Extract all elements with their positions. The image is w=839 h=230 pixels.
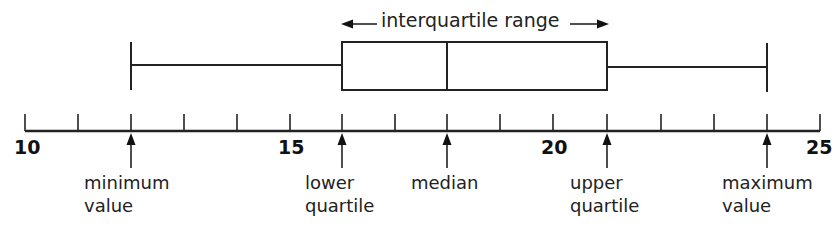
min-label-line2: value: [84, 194, 169, 217]
tick-label-15: 15: [278, 136, 304, 158]
median-label: median: [411, 171, 478, 194]
tick-label-25: 25: [806, 136, 832, 158]
axis-ticks: [25, 114, 820, 131]
median-label-line1: median: [411, 171, 478, 194]
lq-arrow-up-icon: [338, 133, 347, 145]
max-label-line2: value: [722, 194, 813, 217]
max-label-line1: maximum: [722, 171, 813, 194]
min-label-line1: minimum: [84, 171, 169, 194]
max-label: maximum value: [722, 171, 813, 217]
iqr-box: [342, 42, 607, 90]
uq-label: upper quartile: [570, 171, 639, 217]
lq-label-line1: lower: [305, 171, 374, 194]
lq-label-line2: quartile: [305, 194, 374, 217]
median-arrow-up-icon: [443, 133, 452, 145]
iqr-label: interquartile range: [381, 9, 559, 31]
lq-label: lower quartile: [305, 171, 374, 217]
max-arrow-up-icon: [763, 133, 772, 145]
uq-label-line1: upper: [570, 171, 639, 194]
iqr-arrow-right-icon: [597, 20, 609, 29]
min-label: minimum value: [84, 171, 169, 217]
tick-label-10: 10: [14, 136, 40, 158]
uq-arrow-up-icon: [603, 133, 612, 145]
tick-label-20: 20: [541, 136, 567, 158]
min-arrow-up-icon: [127, 133, 136, 145]
uq-label-line2: quartile: [570, 194, 639, 217]
iqr-arrow-left-icon: [341, 20, 353, 29]
